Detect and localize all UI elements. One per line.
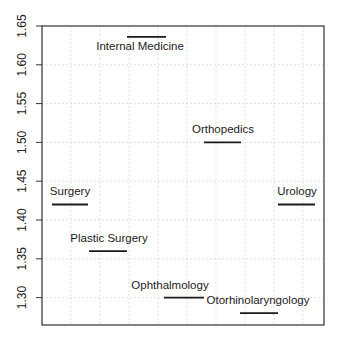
y-tick-label: 1.45 — [15, 169, 29, 193]
segment-label: Urology — [277, 185, 317, 197]
segment-urology: Urology — [277, 185, 317, 204]
y-tick-label: 1.60 — [15, 53, 29, 77]
chart-canvas: 1.301.351.401.451.501.551.601.65 Surgery… — [0, 0, 339, 342]
segment-label: Ophthalmology — [131, 279, 209, 291]
segment-label: Orthopedics — [192, 123, 254, 135]
segment-plastic-surgery: Plastic Surgery — [70, 232, 148, 251]
y-tick-label: 1.35 — [15, 247, 29, 271]
segment-internal-medicine: Internal Medicine — [96, 37, 184, 52]
segment-chart: 1.301.351.401.451.501.551.601.65 Surgery… — [0, 0, 339, 342]
segment-label: Internal Medicine — [96, 40, 184, 52]
segment-otorhinolaryngology: Otorhinolaryngology — [207, 294, 310, 313]
y-axis: 1.301.351.401.451.501.551.601.65 — [15, 14, 42, 309]
segments: SurgeryPlastic SurgeryInternal MedicineO… — [50, 37, 317, 313]
segment-label: Plastic Surgery — [70, 232, 148, 244]
y-tick-label: 1.30 — [15, 286, 29, 310]
y-tick-label: 1.40 — [15, 208, 29, 232]
y-tick-label: 1.55 — [15, 92, 29, 116]
segment-label: Otorhinolaryngology — [207, 294, 310, 306]
segment-surgery: Surgery — [50, 185, 91, 204]
y-tick-label: 1.65 — [15, 14, 29, 38]
y-tick-label: 1.50 — [15, 130, 29, 154]
segment-ophthalmology: Ophthalmology — [131, 279, 209, 298]
segment-orthopedics: Orthopedics — [192, 123, 254, 142]
segment-label: Surgery — [50, 185, 91, 197]
